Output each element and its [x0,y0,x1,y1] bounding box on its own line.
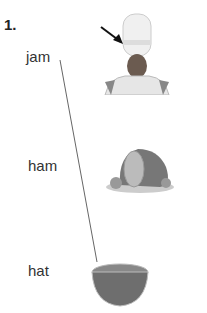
match-line [0,0,207,313]
